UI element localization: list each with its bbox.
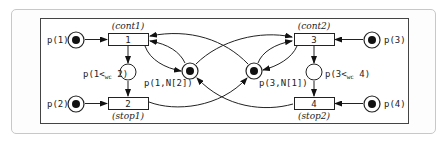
token-icon	[368, 100, 376, 108]
place-label-p4: p(4)	[384, 99, 406, 109]
place-label-p3N1: p(3,N[1])	[259, 78, 308, 88]
place-p2	[68, 96, 84, 112]
transition-4-name: (stop2)	[298, 111, 331, 121]
place-label-p3: p(3)	[384, 35, 406, 45]
token-icon	[72, 100, 80, 108]
token-icon	[72, 36, 80, 44]
transition-1-name: (cont1)	[112, 21, 145, 31]
place-p3wc4	[306, 64, 322, 80]
transition-2-name: (stop1)	[112, 111, 145, 121]
place-label-p1: p(1)	[47, 35, 69, 45]
petri-net-diagram: p(1) p(2) p(3) p(4) p(1<wc 2) p(3<wc 4) …	[0, 0, 448, 143]
transition-2-number: 2	[125, 99, 130, 109]
transition-3-number: 3	[311, 35, 316, 45]
token-icon	[368, 36, 376, 44]
place-label-p1N2: p(1,N[2])	[144, 78, 193, 88]
transition-3-name: (cont2)	[298, 21, 331, 31]
place-p1	[68, 32, 84, 48]
place-p3N1	[246, 63, 262, 79]
place-p4	[364, 96, 380, 112]
place-p1N2	[182, 63, 198, 79]
place-p3	[364, 32, 380, 48]
transition-1-number: 1	[125, 35, 130, 45]
transition-4-number: 4	[311, 99, 316, 109]
place-label-p2: p(2)	[47, 99, 69, 109]
token-icon	[186, 67, 194, 75]
token-icon	[250, 67, 258, 75]
